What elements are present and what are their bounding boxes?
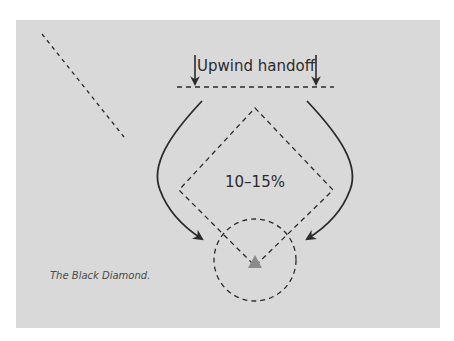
black-diamond-diagram: Upwind handoff 10–15% The Black Diamond. [0,0,454,341]
percentage-label: 10–15% [225,173,285,191]
diagonal-dashed-line [42,34,124,137]
diagram-caption: The Black Diamond. [50,270,150,281]
left-curve-arrow-icon [157,101,202,239]
handoff-label: Upwind handoff [197,57,316,75]
